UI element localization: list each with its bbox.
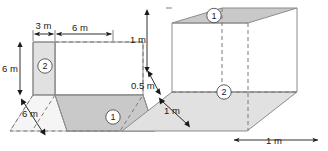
left-dim-6m-vert-label: 6 m — [2, 63, 18, 74]
left-dim-6m-depth-arrow-top — [21, 99, 27, 106]
right-dim-05m-arrow-top — [148, 71, 154, 78]
left-dim-6m-vert-arrow-top — [17, 42, 22, 48]
left-dim-6m-top: 6 m — [57, 22, 114, 41]
right-dim-1m-arrow-top — [144, 9, 149, 15]
right-dim-05m-label: 0.5 m — [131, 80, 155, 91]
right-folded-plane: 1 2 1 m 0.5 m — [122, 8, 318, 146]
right-dim-1m-depth-label: 1 m — [164, 105, 180, 116]
right-dim-1m-base-label: 1 m — [266, 135, 282, 146]
right-dim-1m-vert-label: 1 m — [130, 34, 146, 45]
left-badge-1-label: 1 — [110, 112, 115, 122]
left-dim-6m-vertical: 6 m — [2, 42, 23, 96]
right-badge-1-label: 1 — [211, 11, 216, 21]
right-badge-2-label: 2 — [221, 87, 226, 97]
left-dim-6m-vert-arrow-bottom — [17, 90, 22, 96]
left-dim-6m-top-label: 6 m — [72, 22, 88, 33]
right-badge-1: 1 — [207, 8, 221, 22]
left-badge-2: 2 — [38, 59, 52, 73]
left-dim-3m: 3 m — [33, 20, 55, 41]
right-floor-region-2 — [122, 92, 297, 131]
left-badge-1: 1 — [106, 110, 120, 124]
diagram-canvas: 2 1 3 m 6 m — [0, 0, 328, 151]
right-dim-05m-arrow-bottom — [155, 88, 161, 95]
left-dim-6m-depth-label: 6 m — [22, 108, 38, 119]
left-dim-3m-label: 3 m — [36, 20, 52, 31]
figure-container: 2 1 3 m 6 m — [0, 0, 328, 151]
right-badge-2: 2 — [217, 85, 231, 99]
left-back-panel — [55, 42, 143, 95]
right-top-region-1 — [172, 8, 297, 23]
left-badge-2-label: 2 — [42, 61, 47, 71]
right-dim-1m-base: 1 m — [234, 135, 318, 146]
